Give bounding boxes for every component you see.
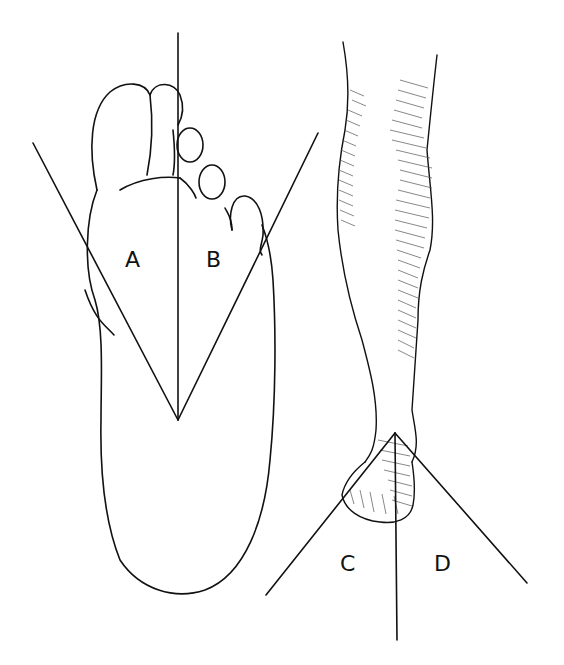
label-d: D: [434, 553, 451, 575]
label-b: B: [206, 249, 221, 271]
label-c: C: [340, 553, 355, 575]
label-a: A: [125, 249, 140, 271]
leg-angle-lines: [266, 433, 527, 640]
diagram-canvas: [0, 0, 564, 665]
foot-sole-drawing: [33, 33, 318, 594]
leg-drawing: [337, 42, 437, 522]
leg-hatching: [339, 80, 432, 514]
